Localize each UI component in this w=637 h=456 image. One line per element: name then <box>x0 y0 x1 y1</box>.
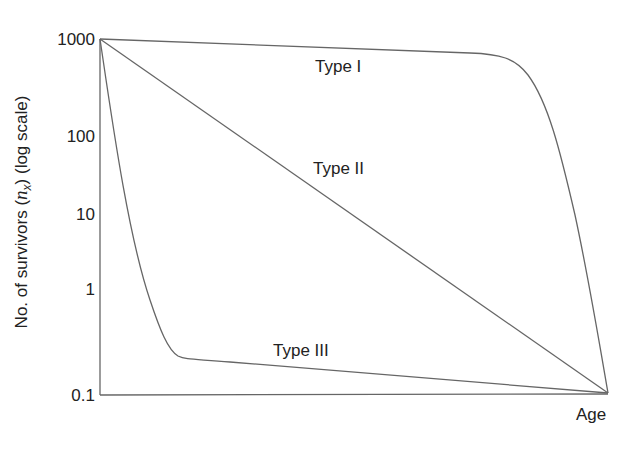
type-1-label: Type I <box>315 57 361 77</box>
type-2-label: Type II <box>313 159 364 179</box>
type-2-line <box>100 39 608 393</box>
y-tick-100: 100 <box>35 127 95 147</box>
type-3-label: Type III <box>273 341 329 361</box>
x-axis <box>100 394 608 395</box>
y-axis-label-var: n <box>10 190 31 200</box>
x-axis-label: Age <box>576 405 606 425</box>
y-axis-label-after: ) (log scale) <box>12 96 31 185</box>
y-axis-label-before: No. of survivors ( <box>12 200 31 328</box>
y-tick-1: 1 <box>35 280 95 300</box>
y-axis-label: No. of survivors (nx) (log scale) <box>10 96 34 329</box>
y-tick-0-1: 0.1 <box>35 386 95 406</box>
y-tick-1000: 1000 <box>35 30 95 50</box>
y-tick-10: 10 <box>35 205 95 225</box>
y-axis-label-sub: x <box>20 184 34 190</box>
